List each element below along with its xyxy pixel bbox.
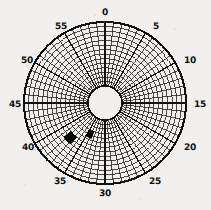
angular-tick-label-45: 45 bbox=[9, 101, 21, 110]
angular-tick-label-15: 15 bbox=[194, 101, 206, 110]
angular-tick-label-10: 10 bbox=[184, 57, 196, 66]
polar-grid-plot bbox=[0, 0, 211, 210]
polar-chart-figure: 0510152025303540455055 bbox=[0, 0, 211, 210]
angular-tick-label-20: 20 bbox=[184, 144, 196, 153]
angular-tick-label-25: 25 bbox=[149, 178, 161, 187]
angular-tick-label-55: 55 bbox=[55, 23, 67, 32]
marker-upper bbox=[64, 131, 77, 144]
angular-tick-label-30: 30 bbox=[99, 190, 111, 199]
angular-tick-label-5: 5 bbox=[153, 23, 159, 32]
angular-tick-label-35: 35 bbox=[54, 178, 66, 187]
angular-tick-label-40: 40 bbox=[22, 144, 34, 153]
angular-tick-label-50: 50 bbox=[21, 57, 33, 66]
marker-lower bbox=[86, 130, 94, 139]
angular-tick-label-0: 0 bbox=[102, 9, 108, 18]
